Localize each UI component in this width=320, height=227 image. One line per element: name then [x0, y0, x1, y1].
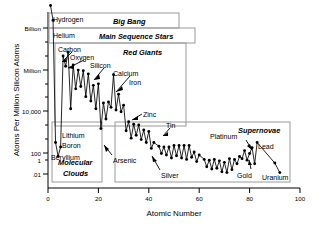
- x-tick-label-60: 60: [196, 195, 203, 202]
- data-point: [92, 84, 95, 87]
- x-tick-label-100: 100: [295, 195, 306, 202]
- element-label-boron: Boron: [62, 142, 81, 149]
- element-label-gold: Gold: [237, 172, 252, 179]
- data-point: [246, 159, 249, 162]
- data-point: [82, 69, 85, 72]
- y-tick-label-million: Million: [23, 67, 41, 74]
- data-point: [120, 110, 123, 113]
- element-label-iron: Iron: [129, 79, 141, 86]
- data-point: [243, 149, 246, 152]
- x-tick-label-40: 40: [145, 195, 152, 202]
- data-point: [225, 171, 228, 174]
- y-tick-label-100: 100: [31, 150, 42, 157]
- x-tick-label-0: 0: [46, 195, 50, 202]
- data-point: [162, 145, 165, 148]
- element-label-helium: Helium: [53, 32, 75, 39]
- data-point: [62, 55, 65, 58]
- data-point: [175, 154, 178, 157]
- data-point: [233, 158, 236, 161]
- data-point: [137, 123, 140, 126]
- y-axis-title: Atoms Per Million Silicon Atoms: [12, 44, 21, 156]
- data-point: [79, 85, 82, 88]
- y-tick-label-1: 1: [38, 157, 42, 164]
- data-point: [210, 167, 213, 170]
- data-point: [160, 152, 163, 155]
- data-point: [228, 157, 231, 160]
- element-label-zinc: Zinc: [143, 111, 157, 118]
- abundance-chart: Billion Million 10,000 100 1 .01 0 20 40…: [0, 0, 320, 227]
- element-label-hydrogen: Hydrogen: [53, 16, 83, 24]
- y-axis-ticks: [43, 28, 48, 174]
- element-label-lead: Lead: [258, 143, 274, 150]
- data-point: [64, 65, 67, 68]
- data-point: [102, 101, 105, 104]
- data-point: [147, 130, 150, 133]
- x-axis-title: Atomic Number: [146, 209, 201, 218]
- supernovae-label: Supernovae: [238, 126, 280, 135]
- data-point: [193, 151, 196, 154]
- data-point: [218, 159, 221, 162]
- x-tick-label-80: 80: [246, 195, 253, 202]
- data-point: [198, 154, 201, 157]
- data-point: [236, 162, 239, 165]
- molecular-clouds-label-line2: Clouds: [63, 169, 88, 178]
- red-giants-label: Red Giants: [123, 48, 162, 57]
- data-point: [99, 127, 102, 130]
- data-point: [127, 120, 130, 123]
- data-point: [238, 155, 241, 158]
- y-tick-label-10000: 10,000: [22, 108, 41, 115]
- data-point: [89, 100, 92, 103]
- data-point: [152, 141, 155, 144]
- element-label-platinum: Platinum: [210, 133, 237, 140]
- x-axis-ticks: [48, 188, 300, 193]
- data-point: [87, 72, 90, 75]
- data-point: [213, 158, 216, 161]
- data-point: [248, 152, 251, 155]
- data-point: [97, 82, 100, 85]
- data-point: [49, 4, 52, 7]
- data-point: [157, 145, 160, 148]
- element-label-tin: Tin: [166, 122, 176, 129]
- data-point: [168, 145, 171, 148]
- data-point: [188, 144, 191, 147]
- data-point: [178, 144, 181, 147]
- data-point: [77, 69, 80, 72]
- data-point: [107, 100, 110, 103]
- data-point: [122, 104, 125, 107]
- element-label-carbon: Carbon: [58, 46, 81, 53]
- data-point: [215, 167, 218, 170]
- data-point: [195, 160, 198, 163]
- data-point: [145, 141, 148, 144]
- element-label-uranium: Uranium: [262, 174, 289, 181]
- data-point: [54, 141, 57, 144]
- data-point: [223, 161, 226, 164]
- data-point: [185, 158, 188, 161]
- data-point: [150, 147, 153, 150]
- y-tick-label-point01: .01: [32, 171, 41, 178]
- data-point: [220, 170, 223, 173]
- x-tick-label-20: 20: [95, 195, 102, 202]
- data-point: [130, 137, 133, 140]
- main-sequence-stars-label: Main Sequence Stars: [99, 32, 173, 41]
- data-point: [84, 95, 87, 98]
- data-point: [142, 129, 145, 132]
- data-point: [183, 144, 186, 147]
- data-point: [203, 158, 206, 161]
- element-label-calcium: Calcium: [113, 70, 138, 77]
- data-point: [115, 109, 118, 112]
- data-point: [273, 162, 276, 165]
- data-point: [69, 107, 72, 110]
- element-label-silver: Silver: [161, 172, 179, 179]
- data-point: [208, 159, 211, 162]
- data-point: [165, 154, 168, 157]
- data-point: [110, 106, 113, 109]
- element-label-arsenic: Arsenic: [113, 157, 137, 164]
- data-point: [205, 165, 208, 168]
- data-point: [94, 107, 97, 110]
- data-point: [170, 156, 173, 159]
- data-point: [190, 156, 193, 159]
- data-point: [117, 93, 120, 96]
- data-point: [241, 157, 244, 160]
- data-point: [253, 162, 256, 165]
- data-point: [173, 144, 176, 147]
